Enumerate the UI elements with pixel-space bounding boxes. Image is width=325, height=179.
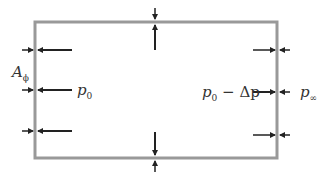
outer-right-pressure-label: p∞ xyxy=(300,83,317,103)
area-label: Aϕ xyxy=(10,63,29,83)
left-pressure-arrows xyxy=(22,50,72,131)
inner-left-pressure-label: p0 xyxy=(77,81,93,101)
inner-right-pressure-label: p0 − Δp xyxy=(202,83,260,103)
control-volume-diagram: Aϕ p0 p0 − Δp p∞ xyxy=(0,0,325,179)
